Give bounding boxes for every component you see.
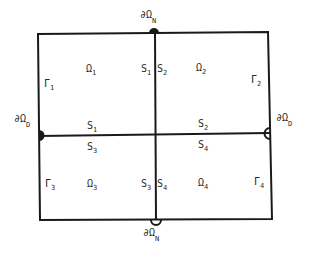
neumann-bottom-label: ∂ΩN bbox=[143, 227, 159, 243]
s2-vertical-label: S2 bbox=[157, 63, 167, 77]
neumann-top-marker-icon bbox=[149, 28, 159, 33]
s4-horizontal-label: S4 bbox=[198, 139, 208, 153]
gamma-3-label: Γ3 bbox=[45, 178, 55, 192]
s3-horizontal-label: S3 bbox=[87, 141, 97, 155]
s2-horizontal-label: S2 bbox=[198, 118, 208, 132]
neumann-top-label: ∂ΩN bbox=[140, 9, 156, 25]
dirichlet-left-label: ∂ΩD bbox=[14, 113, 30, 129]
s3-vertical-label: S3 bbox=[141, 178, 151, 192]
horizontal-interface bbox=[39, 133, 270, 136]
vertical-interface bbox=[155, 33, 156, 220]
neumann-bottom-marker-icon bbox=[151, 220, 161, 225]
gamma-2-label: Γ2 bbox=[251, 74, 261, 88]
omega-4-label: Ω4 bbox=[198, 177, 208, 191]
omega-2-label: Ω2 bbox=[196, 62, 206, 76]
s1-horizontal-label: S1 bbox=[87, 120, 97, 134]
gamma-1-label: Γ1 bbox=[44, 78, 54, 92]
domain-decomposition-diagram: ∂ΩN ∂ΩN ∂ΩD ∂ΩD Γ1 Γ2 Γ3 Γ4 Ω1 Ω2 Ω3 Ω4 … bbox=[0, 0, 309, 257]
s4-vertical-label: S4 bbox=[157, 178, 167, 192]
omega-1-label: Ω1 bbox=[86, 63, 96, 77]
dirichlet-right-label: ∂ΩD bbox=[276, 112, 292, 128]
dirichlet-left-marker-icon bbox=[39, 130, 45, 141]
omega-3-label: Ω3 bbox=[87, 178, 97, 192]
gamma-4-label: Γ4 bbox=[254, 176, 264, 190]
s1-vertical-label: S1 bbox=[141, 63, 151, 77]
